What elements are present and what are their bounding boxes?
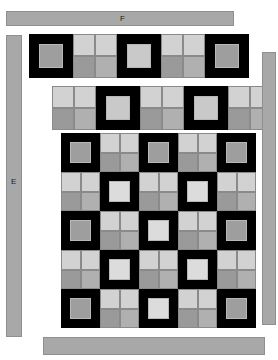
tile-quadrant-br [95,56,117,78]
tile-quadrant-bl [61,192,81,212]
tile-quadrant-tl [178,211,198,231]
tile-quadrant-tl [139,250,159,270]
tile-quadrant-bl [140,108,162,130]
framed-square-tile-r2c2 [100,172,139,211]
dimension-label-f: F [120,14,125,23]
four-quadrant-tile-row-second-strip-3 [140,86,184,130]
tile-quadrant-br [183,56,205,78]
tile-quadrant-tl [52,86,74,108]
four-quadrant-tile-row-top-strip-2 [73,34,117,78]
tile-inner-square [226,142,248,164]
dimension-bar-e [6,35,22,337]
tile-quadrant-tr [183,34,205,56]
tile-quadrant-tl [228,86,250,108]
framed-square-tile-r1c3 [139,133,178,172]
four-quadrant-tile-r1c2 [100,133,139,172]
framed-square-tile-row-second-strip-4 [184,86,228,130]
tile-inner-square [109,259,131,281]
four-quadrant-tile-r2c1 [61,172,100,211]
tile-quadrant-tl [100,133,120,153]
tile-quadrant-br [120,231,140,251]
tile-inner-square [194,96,219,121]
tile-quadrant-tr [237,250,257,270]
framed-square-tile-r4c2 [100,250,139,289]
tile-quadrant-bl [178,231,198,251]
tile-quadrant-tr [159,172,179,192]
framed-square-tile-r1c5 [217,133,256,172]
tile-quadrant-br [74,108,96,130]
tile-quadrant-tl [217,172,237,192]
tile-inner-square [106,96,131,121]
tile-quadrant-tr [120,133,140,153]
tile-quadrant-tr [198,289,218,309]
tile-quadrant-tr [198,211,218,231]
tile-quadrant-tr [95,34,117,56]
tile-quadrant-tl [178,133,198,153]
tile-quadrant-tl [217,250,237,270]
tile-inner-square [148,298,170,320]
tile-quadrant-tr [74,86,96,108]
four-quadrant-tile-row-top-strip-4 [161,34,205,78]
tile-quadrant-bl [178,153,198,173]
tile-inner-square [226,220,248,242]
tile-quadrant-tl [100,289,120,309]
tile-quadrant-br [120,153,140,173]
framed-square-tile-row-top-strip-1 [29,34,73,78]
tile-quadrant-bl [161,56,183,78]
tile-quadrant-tr [81,172,101,192]
framed-square-tile-row-second-strip-2 [96,86,140,130]
four-quadrant-tile-r2c5 [217,172,256,211]
tile-quadrant-bl [61,270,81,290]
framed-square-tile-row-top-strip-3 [117,34,161,78]
tile-inner-square [39,44,64,69]
tile-inner-square [70,220,92,242]
tile-inner-square [70,142,92,164]
tile-quadrant-tl [100,211,120,231]
tile-quadrant-tr [120,211,140,231]
tile-quadrant-bl [139,270,159,290]
four-quadrant-tile-r4c5 [217,250,256,289]
tile-quadrant-br [198,309,218,329]
tile-quadrant-br [159,192,179,212]
tile-quadrant-tl [73,34,95,56]
tile-inner-square [109,181,131,203]
tile-quadrant-br [81,192,101,212]
four-quadrant-tile-r2c3 [139,172,178,211]
tile-inner-square [187,181,209,203]
tile-quadrant-br [120,309,140,329]
figure-canvas: F E [0,0,278,360]
tile-inner-square [148,220,170,242]
dimension-bar-right [262,52,276,325]
framed-square-tile-r3c5 [217,211,256,250]
tile-quadrant-tl [61,250,81,270]
tile-quadrant-tr [159,250,179,270]
tile-quadrant-bl [178,309,198,329]
tile-quadrant-bl [100,153,120,173]
four-quadrant-tile-r3c4 [178,211,217,250]
tile-inner-square [148,142,170,164]
tile-quadrant-bl [100,309,120,329]
dimension-bar-bottom [43,337,265,355]
tile-quadrant-tr [120,289,140,309]
tile-quadrant-tl [178,289,198,309]
tile-quadrant-tl [161,34,183,56]
tile-inner-square [70,298,92,320]
four-quadrant-tile-r4c1 [61,250,100,289]
four-quadrant-tile-r5c4 [178,289,217,328]
tile-quadrant-br [237,192,257,212]
framed-square-tile-r5c3 [139,289,178,328]
dimension-label-e: E [11,177,16,186]
tile-quadrant-tr [81,250,101,270]
four-quadrant-tile-r3c2 [100,211,139,250]
tile-inner-square [215,44,240,69]
four-quadrant-tile-row-second-strip-1 [52,86,96,130]
tile-quadrant-tr [162,86,184,108]
tile-quadrant-br [198,153,218,173]
framed-square-tile-r2c4 [178,172,217,211]
tile-inner-square [187,259,209,281]
tile-quadrant-tr [198,133,218,153]
tile-quadrant-br [81,270,101,290]
framed-square-tile-r4c4 [178,250,217,289]
tile-quadrant-bl [217,270,237,290]
framed-square-tile-row-top-strip-5 [205,34,249,78]
